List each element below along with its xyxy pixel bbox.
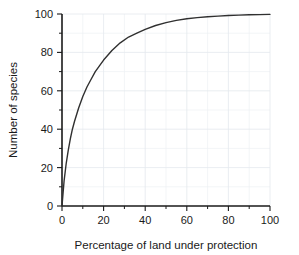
x-tick-label: 20 <box>97 214 109 226</box>
x-axis-title: Percentage of land under protection <box>75 239 258 251</box>
y-axis-title: Number of species <box>7 62 19 158</box>
y-tick-label: 100 <box>35 8 53 20</box>
species-area-chart: 020406080100 020406080100 Percentage of … <box>0 0 299 255</box>
y-tick-label: 40 <box>41 123 53 135</box>
x-tick-label: 100 <box>261 214 279 226</box>
x-tick-label: 40 <box>139 214 151 226</box>
x-tick-label: 0 <box>59 214 65 226</box>
x-tick-label: 60 <box>181 214 193 226</box>
y-tick-label: 80 <box>41 46 53 58</box>
y-tick-label: 0 <box>47 200 53 212</box>
x-tick-label: 80 <box>222 214 234 226</box>
y-tick-label: 20 <box>41 162 53 174</box>
y-tick-label: 60 <box>41 85 53 97</box>
chart-figure: 020406080100 020406080100 Percentage of … <box>0 0 299 255</box>
